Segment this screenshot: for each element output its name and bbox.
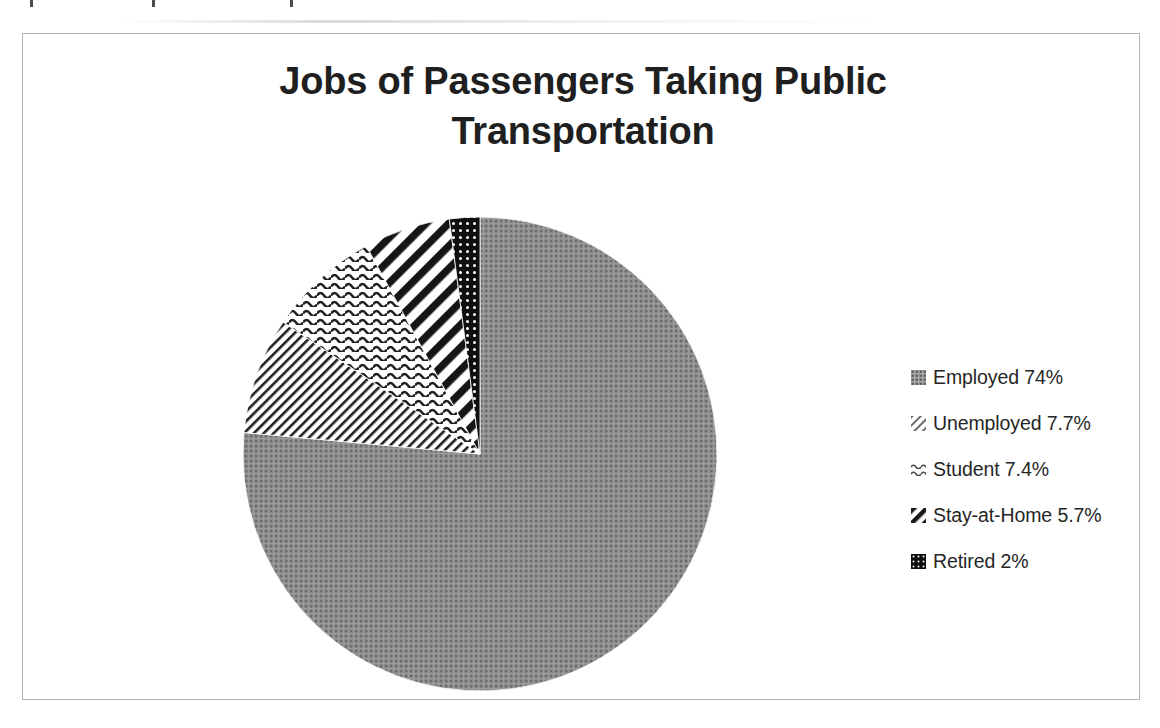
grid-swatch-icon: [911, 370, 926, 385]
legend-label: Student 7.4%: [933, 458, 1049, 481]
wavy-swatch-icon: [911, 462, 926, 477]
scan-speck: [290, 0, 293, 7]
dotted-black-swatch-icon: [911, 554, 926, 569]
legend-item-retired[interactable]: Retired 2%: [911, 538, 1151, 584]
legend-item-student[interactable]: Student 7.4%: [911, 446, 1151, 492]
chart-frame: Jobs of Passengers Taking Public Transpo…: [22, 33, 1140, 700]
chart-title: Jobs of Passengers Taking Public Transpo…: [173, 56, 993, 156]
legend-item-stay-at-home[interactable]: Stay-at-Home 5.7%: [911, 492, 1151, 538]
legend-label: Retired 2%: [933, 550, 1028, 573]
diagonal-swatch-icon: [911, 416, 926, 431]
chart-title-line-1: Jobs of Passengers Taking Public: [279, 60, 886, 102]
legend-label: Unemployed 7.7%: [933, 412, 1091, 435]
legend-label: Stay-at-Home 5.7%: [933, 504, 1101, 527]
legend-item-employed[interactable]: Employed 74%: [911, 354, 1151, 400]
scan-smudge: [120, 20, 880, 23]
legend-label: Employed 74%: [933, 366, 1063, 389]
legend-item-unemployed[interactable]: Unemployed 7.7%: [911, 400, 1151, 446]
scan-speck: [30, 0, 33, 7]
chart-legend: Employed 74% Unemployed 7.7% Student 7.4…: [911, 354, 1151, 584]
pie-slices: [243, 217, 717, 691]
chart-title-line-2: Transportation: [451, 110, 714, 152]
pie-chart: [219, 199, 741, 709]
scan-speck: [152, 0, 155, 7]
scan-artifacts: [0, 0, 1160, 26]
pie-chart-svg: [219, 199, 741, 709]
stripe-swatch-icon: [911, 508, 926, 523]
